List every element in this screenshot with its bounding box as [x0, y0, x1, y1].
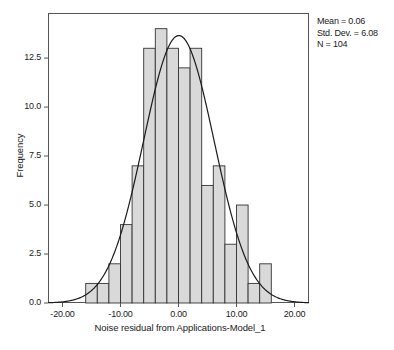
histogram-bar: [248, 283, 260, 303]
x-axis-title: Noise residual from Applications-Model_1: [0, 322, 360, 333]
chart-canvas: [0, 0, 394, 350]
x-tick-label: -20.00: [33, 309, 93, 319]
histogram-bar: [109, 264, 121, 303]
x-tick-label: 20.00: [265, 309, 325, 319]
x-tick-label: 0.00: [149, 309, 209, 319]
histogram-bar: [225, 244, 237, 303]
histogram-bar: [237, 205, 249, 303]
n-label: N = 104: [317, 39, 378, 51]
histogram-bars: [86, 29, 272, 303]
y-tick-label: 12.5: [2, 52, 41, 62]
histogram-bar: [202, 185, 214, 303]
y-tick-label: 5.0: [2, 199, 41, 209]
x-tick-label: -10.00: [91, 309, 151, 319]
histogram-bar: [144, 48, 156, 303]
y-tick-label: 0.0: [2, 297, 41, 307]
mean-label: Mean = 0.06: [317, 16, 378, 28]
histogram-bar: [179, 68, 191, 303]
histogram-bar: [260, 264, 272, 303]
histogram-bar: [97, 283, 109, 303]
x-tick-label: 10.00: [207, 309, 267, 319]
stddev-label: Std. Dev. = 6.08: [317, 28, 378, 40]
y-tick-label: 2.5: [2, 248, 41, 258]
histogram-bar: [213, 166, 225, 303]
y-tick-label: 10.0: [2, 101, 41, 111]
histogram-bar: [167, 48, 179, 303]
histogram-bar: [121, 225, 133, 303]
y-axis-tick-marks: [44, 58, 48, 303]
histogram-bar: [155, 29, 167, 303]
y-axis-title: Frequency: [14, 116, 25, 196]
x-axis-tick-marks: [63, 303, 295, 307]
statistics-annotation: Mean = 0.06 Std. Dev. = 6.08 N = 104: [317, 16, 378, 51]
histogram-bar: [190, 48, 202, 303]
histogram-chart: 0.02.55.07.510.012.5 -20.00-10.000.0010.…: [0, 0, 394, 350]
